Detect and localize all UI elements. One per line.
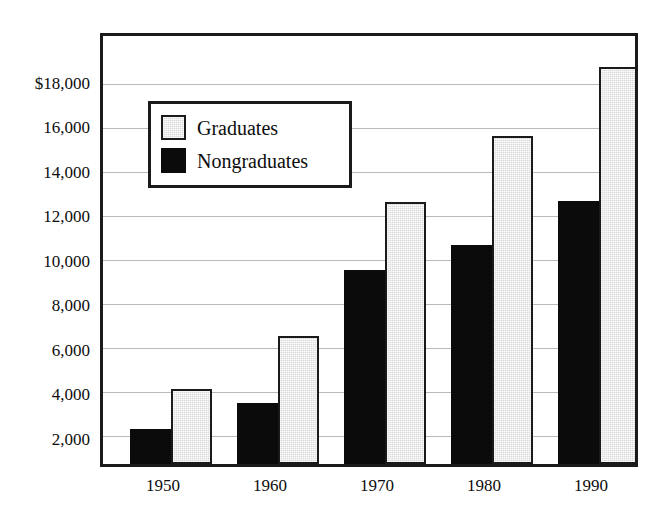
legend-swatch-graduates-icon <box>161 115 186 140</box>
gridline-12000 <box>103 216 635 217</box>
chart-legend: Graduates Nongraduates <box>148 101 352 188</box>
bar-graduates-1990 <box>599 67 635 464</box>
bar-nongraduates-1950 <box>130 429 171 464</box>
x-tick-label-1990: 1990 <box>536 477 646 494</box>
bar-nongraduates-1990 <box>558 201 599 464</box>
plot-area <box>100 33 638 467</box>
x-tick-label-1960: 1960 <box>215 477 325 494</box>
bar-graduates-1950 <box>171 389 212 464</box>
y-tick-label: $18,000 <box>35 75 90 92</box>
legend-entry-nongraduates: Nongraduates <box>161 144 339 177</box>
bar-graduates-1960 <box>278 336 319 464</box>
y-tick-label: 10,000 <box>43 253 90 270</box>
gridline-18000 <box>103 84 635 85</box>
x-tick-label-1980: 1980 <box>429 477 539 494</box>
bar-graduates-1970 <box>385 202 426 464</box>
gridline-10000 <box>103 260 635 261</box>
y-tick-label: 16,000 <box>43 119 90 136</box>
bar-nongraduates-1970 <box>344 270 385 464</box>
y-tick-label: 4,000 <box>52 386 90 403</box>
bar-graduates-1980 <box>492 136 533 464</box>
y-tick-label: 14,000 <box>43 164 90 181</box>
legend-entry-graduates: Graduates <box>161 111 339 144</box>
legend-label-graduates: Graduates <box>197 118 278 138</box>
bar-nongraduates-1960 <box>237 403 278 464</box>
y-tick-label: 12,000 <box>43 208 90 225</box>
y-tick-label: 6,000 <box>52 342 90 359</box>
y-tick-label: 2,000 <box>52 431 90 448</box>
bar-chart: $18,000 16,000 14,000 12,000 10,000 8,00… <box>0 0 672 525</box>
y-axis-tick-labels: $18,000 16,000 14,000 12,000 10,000 8,00… <box>0 0 90 525</box>
x-tick-label-1970: 1970 <box>322 477 432 494</box>
x-tick-label-1950: 1950 <box>108 477 218 494</box>
legend-swatch-nongraduates-icon <box>161 148 186 173</box>
legend-label-nongraduates: Nongraduates <box>197 151 308 171</box>
y-tick-label: 8,000 <box>52 297 90 314</box>
bar-nongraduates-1980 <box>451 245 492 464</box>
